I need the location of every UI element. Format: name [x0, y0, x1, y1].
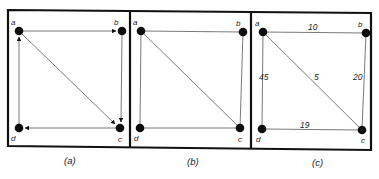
vertex-a [137, 27, 146, 36]
vertex-c [236, 124, 245, 133]
edge-b-c [362, 33, 366, 130]
panel-b-undirected-graph: a b c d [133, 18, 247, 144]
edge-d-c [262, 129, 362, 130]
weight-a-b: 10 [308, 22, 318, 32]
vertex-a [259, 28, 268, 37]
panel-a-directed-graph: a b c d [11, 18, 126, 144]
vertex-d [258, 125, 267, 134]
caption-a: (a) [64, 155, 76, 166]
vertex-label-b: b [236, 19, 241, 28]
vertex-c [116, 124, 125, 133]
vertex-label-d: d [134, 134, 139, 143]
caption-c: (c) [312, 157, 323, 168]
caption-b: (b) [187, 156, 199, 167]
edge-b-to-c [121, 35, 122, 122]
vertex-c [358, 126, 367, 135]
vertex-a [15, 27, 24, 36]
edge-a-b [141, 31, 243, 32]
edge-a-to-c [22, 34, 115, 124]
graph-figure: a b c d a b c d a b c d 10 45 5 [0, 0, 379, 179]
vertex-label-b: b [358, 20, 363, 29]
vertex-label-a: a [255, 19, 260, 28]
vertex-label-a: a [11, 18, 16, 27]
vertex-label-c: c [238, 135, 242, 144]
edge-d-a [140, 31, 141, 128]
vertex-label-c: c [118, 135, 122, 144]
weight-a-c: 5 [314, 72, 319, 82]
weight-a-d: 45 [259, 72, 269, 82]
edge-b-c [240, 32, 243, 128]
vertex-label-a: a [133, 18, 138, 27]
vertex-b [118, 27, 127, 36]
vertex-label-b: b [114, 18, 119, 27]
weight-d-c: 19 [300, 120, 310, 130]
vertex-b [362, 29, 371, 38]
edge-a-c [141, 31, 240, 128]
vertex-label-d: d [256, 135, 261, 144]
panel-c-weighted-graph: a b c d 10 45 5 20 19 [255, 19, 370, 145]
vertex-label-d: d [11, 134, 16, 143]
vertex-d [136, 124, 145, 133]
edge-a-b [263, 32, 366, 33]
edge-a-c [263, 32, 362, 130]
vertex-label-c: c [361, 136, 365, 145]
vertex-b [239, 28, 248, 37]
vertex-d [15, 124, 24, 133]
weight-b-c: 20 [352, 72, 363, 82]
